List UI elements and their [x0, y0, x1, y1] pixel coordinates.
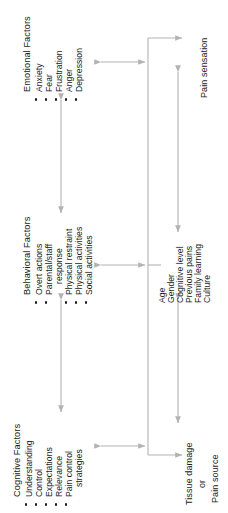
- node-pain-sensation: Pain sensation: [199, 38, 210, 98]
- group-behavioral-item: Physical activities: [74, 227, 84, 295]
- group-cognitive-item: Control: [34, 469, 44, 497]
- group-emotional-item: Anger: [64, 69, 74, 92]
- modifier-item: Culture: [202, 275, 212, 303]
- bullet-icon: [65, 98, 68, 101]
- group-behavioral-title: Behavioral Factors: [22, 217, 33, 295]
- group-emotional-item: Anxiety: [34, 63, 44, 92]
- group-behavioral-item-cont: response: [54, 248, 64, 284]
- group-cognitive-item: Pain control: [64, 451, 74, 497]
- bullet-icon: [65, 503, 68, 506]
- bullet-icon: [35, 98, 38, 101]
- group-cognitive-item: Understanding: [24, 440, 34, 497]
- bullet-icon: [45, 301, 48, 304]
- group-emotional-title: Emotional Factors: [22, 16, 33, 92]
- bullet-icon: [35, 503, 38, 506]
- group-cognitive-item: Relevance: [54, 456, 64, 497]
- diagram-canvas: Emotional Factors Anxiety Fear Frustrati…: [0, 0, 228, 513]
- group-behavioral-item: Overt actions: [34, 244, 44, 295]
- group-behavioral-item: Physical restraint: [64, 229, 74, 295]
- group-cognitive-item-cont: strategies: [74, 449, 84, 487]
- bullet-icon: [35, 301, 38, 304]
- group-emotional-item: Fear: [44, 74, 54, 92]
- bullet-icon: [55, 98, 58, 101]
- bullet-icon: [85, 301, 88, 304]
- bullet-icon: [25, 503, 28, 506]
- bullet-icon: [45, 503, 48, 506]
- node-tissue-damage-line2: or: [197, 480, 208, 488]
- group-emotional-item: Frustration: [54, 50, 64, 92]
- group-cognitive-title: Cognitive Factors: [12, 424, 23, 497]
- bullet-icon: [55, 503, 58, 506]
- group-cognitive-item: Expectations: [44, 447, 54, 497]
- group-emotional-item: Depression: [74, 48, 84, 92]
- group-behavioral-item: Parental/staff: [44, 244, 54, 295]
- bullet-icon: [75, 98, 78, 101]
- node-tissue-damage-line1: Tissue damage: [184, 443, 195, 506]
- group-behavioral-item: Social activities: [84, 235, 94, 295]
- bullet-icon: [45, 98, 48, 101]
- node-tissue-damage-line3: Pain source: [210, 454, 221, 503]
- bullet-icon: [75, 301, 78, 304]
- bullet-icon: [65, 301, 68, 304]
